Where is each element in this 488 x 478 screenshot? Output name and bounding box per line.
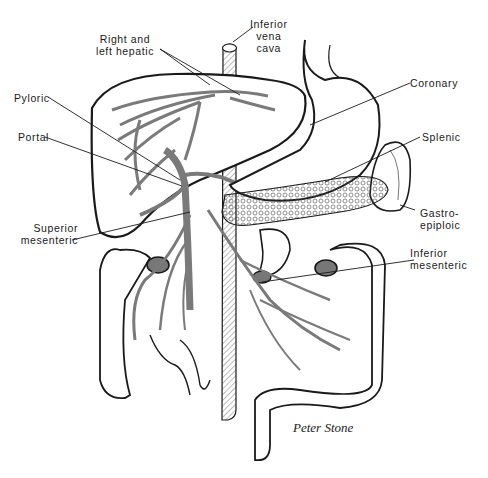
label-gastroepiploic: Gastro- epiploic	[420, 207, 460, 231]
label-inferior-mesenteric: Inferior mesenteric	[410, 247, 467, 271]
small-bowel	[150, 335, 210, 395]
label-pyloric: Pyloric	[14, 92, 50, 104]
label-coronary: Coronary	[410, 77, 458, 89]
label-right-left-hepatic: Right and left hepatic	[96, 33, 154, 57]
label-portal: Portal	[18, 131, 49, 143]
mesenteric-veins	[134, 210, 350, 370]
artist-signature: Peter Stone	[292, 420, 354, 435]
label-inferior-vena-cava: Inferior vena cava	[250, 18, 287, 54]
label-superior-mesenteric: Superior mesenteric	[10, 222, 78, 246]
label-splenic: Splenic	[422, 131, 461, 143]
